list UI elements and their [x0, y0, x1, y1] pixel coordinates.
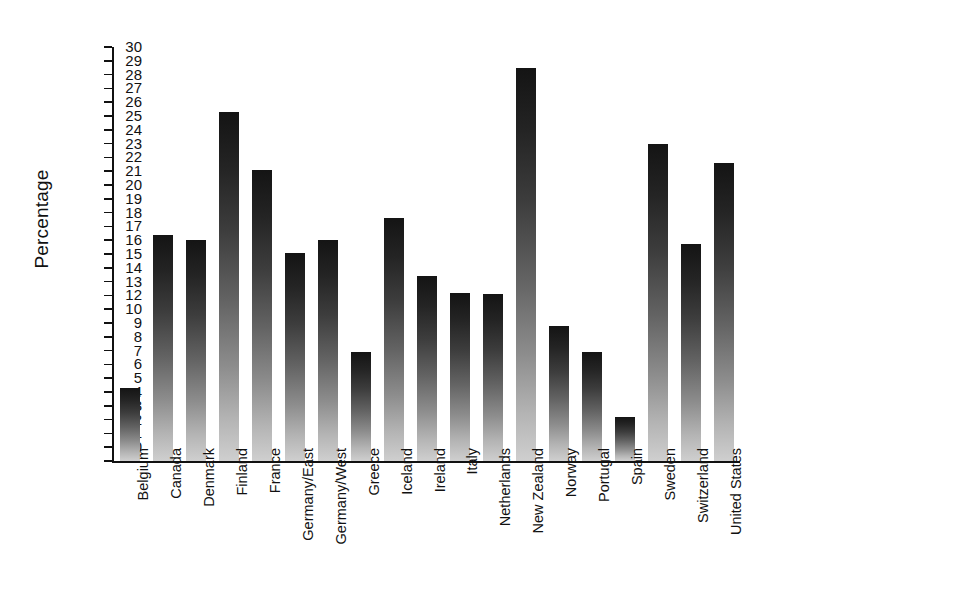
- x-tick-label: Canada: [169, 448, 184, 588]
- bar-chart: Percentage 30292827262524232221201918171…: [0, 0, 976, 592]
- x-axis-tick-labels: BelgiumCanadaDenmarkFinlandFranceGermany…: [114, 470, 740, 590]
- x-tick-label: Italy: [465, 448, 480, 588]
- bar: [483, 294, 503, 461]
- x-tick-label: Spain: [630, 448, 645, 588]
- x-tick-label: Switzerland: [696, 448, 711, 588]
- y-axis-title: Percentage: [31, 139, 53, 299]
- x-tick-label: United States: [729, 448, 744, 588]
- x-tick-label: New Zealand: [531, 448, 546, 588]
- x-tick-label: Belgium: [136, 448, 151, 588]
- x-tick-label: Finland: [235, 448, 250, 588]
- x-tick-label: Sweden: [663, 448, 678, 588]
- x-tick-label: Portugal: [597, 448, 612, 588]
- bar: [549, 326, 569, 461]
- bar: [714, 163, 734, 461]
- bar: [450, 293, 470, 461]
- bar: [351, 352, 371, 461]
- bar: [285, 253, 305, 461]
- x-tick-label: Greece: [367, 448, 382, 588]
- x-tick-label: Norway: [564, 448, 579, 588]
- plot-area: 3029282726252423222120191817161514131210…: [112, 40, 740, 470]
- bar: [186, 240, 206, 461]
- x-tick-label: Ireland: [433, 448, 448, 588]
- bar: [384, 218, 404, 461]
- x-tick-label: Germany/West: [334, 448, 349, 588]
- x-tick-label: Germany/East: [301, 448, 316, 588]
- bar: [252, 170, 272, 461]
- bar: [516, 68, 536, 461]
- bar-series: [114, 40, 740, 463]
- x-tick-label: Netherlands: [498, 448, 513, 588]
- x-tick-label: Denmark: [202, 448, 217, 588]
- bar: [582, 352, 602, 461]
- bar: [318, 240, 338, 461]
- bar: [648, 144, 668, 461]
- bar: [681, 244, 701, 461]
- bar: [153, 235, 173, 461]
- bar: [417, 276, 437, 461]
- x-tick-label: Iceland: [400, 448, 415, 588]
- bar: [219, 112, 239, 461]
- x-tick-label: France: [268, 448, 283, 588]
